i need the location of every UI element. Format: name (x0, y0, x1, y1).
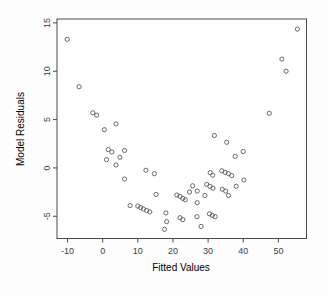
plot-box (57, 19, 307, 239)
scatter-plot: -1001020304050-5051015 Fitted Values Mod… (0, 0, 328, 296)
x-tick-label: 10 (133, 246, 143, 256)
x-tick-label: 30 (203, 246, 213, 256)
y-tick-label: 5 (42, 117, 52, 122)
y-tick-label: -5 (42, 212, 52, 220)
x-tick-label: 0 (100, 246, 105, 256)
x-tick-label: 40 (238, 246, 248, 256)
y-tick-label: 0 (42, 165, 52, 170)
figure-container: -1001020304050-5051015 Fitted Values Mod… (0, 0, 328, 296)
x-tick-label: 20 (168, 246, 178, 256)
x-axis-label: Fitted Values (152, 262, 210, 273)
y-axis-label: Model Residuals (15, 92, 26, 166)
y-tick-label: 10 (42, 66, 52, 76)
y-tick-label: 15 (42, 18, 52, 28)
x-tick-label: -10 (61, 246, 74, 256)
x-tick-label: 50 (273, 246, 283, 256)
plot-content: -1001020304050-5051015 (42, 18, 307, 256)
